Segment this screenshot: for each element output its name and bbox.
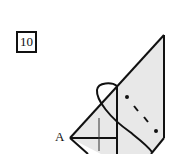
point-a-label: A [55, 129, 64, 145]
origami-diagram [0, 0, 192, 154]
